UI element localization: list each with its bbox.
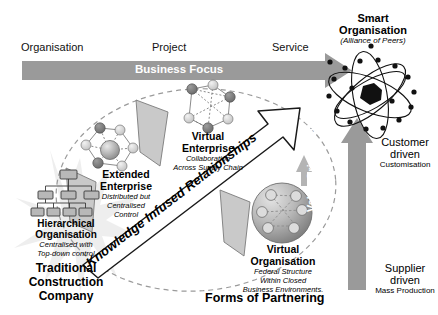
customer-driven-line1: Customer [374,136,436,148]
atom-icon [323,43,417,141]
virtual-enterprise-title-0: Virtual [158,130,258,142]
hierarchical-title-1: Organisation [10,229,122,240]
smart-organisation-title-0: Smart [325,12,421,24]
supplier-driven-line2: driven [374,274,436,286]
traditional-caption-0: Traditional [10,261,122,275]
value-orientation-arrow-label: Value Orientation [305,122,317,212]
smart-organisation-sub-0: (Alliance of Peers) [325,36,421,45]
network-graph-icon-virtual-enterprise [184,80,235,133]
hierarchical-sub-0: Centralised with [10,240,122,249]
business-focus-stage-0: Organisation [21,41,83,53]
node-label-smart-organisation: Smart Organisation (Alliance of Peers) [325,12,421,45]
virtual-organisation-sub-1: Within Closed [228,276,338,285]
virtual-organisation-title-1: Organisation [228,255,338,267]
value-orientation-arrow [341,118,373,290]
value-orientation-top: Customer driven Customisation [374,136,436,169]
extended-enterprise-title-1: Enterprise [80,180,172,192]
sphere-network-icon [252,183,312,243]
hierarchical-sub-1: Top-down control [10,249,122,258]
forms-of-partnering-title: Forms of Partnering [205,291,324,305]
business-focus-stage-2: Service [272,41,309,53]
virtual-organisation-title-0: Virtual [228,243,338,255]
business-focus-stage-1: Project [152,41,186,53]
supplier-driven-line3: Mass Production [374,286,436,295]
diagram-canvas: Organisation Project Service Business Fo… [0,0,438,315]
hierarchical-title-0: Hierarchical [10,218,122,229]
extended-enterprise-sub-0: Distributed but [80,192,172,201]
virtual-enterprise-title-1: Enterprise [158,142,258,154]
node-label-traditional: Hierarchical Organisation Centralised wi… [10,218,122,303]
extended-enterprise-sub-1: Centralised [80,201,172,210]
virtual-organisation-sub-0: Federal Structure [228,267,338,276]
customer-driven-line2: driven [374,148,436,160]
customer-driven-line3: Customisation [374,160,436,169]
value-orientation-bottom: Supplier driven Mass Production [374,262,436,295]
virtual-enterprise-sub-0: Collaboration [158,154,258,163]
network-graph-icon-extended [81,123,138,171]
traditional-caption-1: Construction [10,275,122,289]
node-label-virtual-organisation: Virtual Organisation Federal Structure W… [228,243,338,294]
traditional-caption-2: Company [10,289,122,303]
extended-enterprise-title-0: Extended [80,168,172,180]
node-label-virtual-enterprise: Virtual Enterprise Collaboration Across … [158,130,258,172]
smart-organisation-title-1: Organisation [325,24,421,36]
virtual-enterprise-sub-1: Across Supply Chain [158,163,258,172]
supplier-driven-line1: Supplier [374,262,436,274]
business-focus-arrow-label: Business Focus [135,63,223,75]
node-label-extended-enterprise: Extended Enterprise Distributed but Cent… [80,168,172,219]
